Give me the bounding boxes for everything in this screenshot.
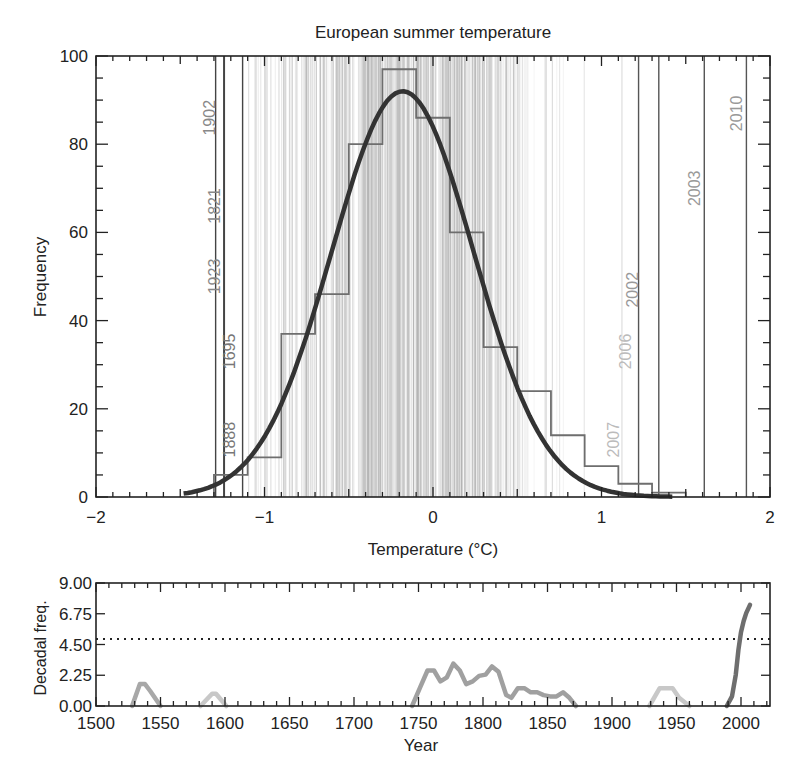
- y-tick-label: 80: [69, 135, 88, 154]
- decadal-series-line: [727, 605, 750, 706]
- y-tick-labels: 0.002.254.506.759.00: [59, 574, 92, 716]
- x-tick-label: 1950: [658, 714, 696, 733]
- y-tick-label: 0.00: [59, 697, 92, 716]
- chart-title: European summer temperature: [315, 23, 551, 42]
- x-tick-label: −2: [86, 508, 105, 527]
- y-tick-label: 40: [69, 312, 88, 331]
- y-tick-label: 60: [69, 223, 88, 242]
- x-tick-label: 1650: [271, 714, 309, 733]
- x-tick-labels: −2−1012: [86, 508, 774, 527]
- x-tick-label: 1500: [77, 714, 115, 733]
- x-tick-label: 1550: [142, 714, 180, 733]
- chart-canvas: European summer temperature 190218211923…: [0, 0, 805, 782]
- year-label: 1902: [201, 100, 218, 136]
- x-tick-label: 1750: [400, 714, 438, 733]
- x-tick-label: 1: [597, 508, 606, 527]
- y-tick-label: 0: [79, 488, 88, 507]
- x-tick-label: 1850: [529, 714, 567, 733]
- x-tick-label: 2000: [722, 714, 760, 733]
- histogram-panel: European summer temperature 190218211923…: [31, 23, 775, 559]
- year-label: 1923: [206, 259, 223, 295]
- x-tick-label: 0: [428, 508, 437, 527]
- y-tick-label: 100: [60, 47, 88, 66]
- y-tick-label: 9.00: [59, 574, 92, 593]
- decadal-series-line: [649, 688, 689, 706]
- y-tick-label: 6.75: [59, 605, 92, 624]
- year-label: 1695: [221, 334, 238, 370]
- x-tick-labels: 1500155016001650170017501800185019001950…: [77, 714, 760, 733]
- y-axis-label: Decadal freq.: [32, 600, 49, 695]
- x-axis-label: Year: [404, 736, 439, 755]
- decadal-frequency-panel: 1500155016001650170017501800185019001950…: [32, 574, 770, 755]
- x-tick-label: 1600: [206, 714, 244, 733]
- decadal-series-line: [132, 684, 160, 706]
- year-label: 1888: [221, 422, 238, 458]
- x-tick-label: 2: [765, 508, 774, 527]
- year-label: 2007: [605, 422, 622, 458]
- y-tick-label: 20: [69, 400, 88, 419]
- y-tick-labels: 020406080100: [60, 47, 88, 507]
- y-tick-label: 4.50: [59, 636, 92, 655]
- year-label: 2003: [686, 170, 703, 206]
- figure: European summer temperature 190218211923…: [0, 0, 805, 782]
- x-tick-label: 1700: [335, 714, 373, 733]
- decadal-frequency-series: [132, 605, 750, 706]
- x-tick-label: −1: [255, 508, 274, 527]
- decadal-series-line: [201, 694, 227, 706]
- x-tick-label: 1900: [593, 714, 631, 733]
- x-axis-label: Temperature (°C): [368, 540, 499, 559]
- year-label: 2006: [617, 334, 634, 370]
- year-label: 1821: [206, 188, 223, 224]
- decadal-series-line: [412, 664, 576, 706]
- y-tick-label: 2.25: [59, 666, 92, 685]
- year-label: 2002: [624, 272, 641, 308]
- year-label: 2010: [728, 95, 745, 131]
- x-tick-label: 1800: [464, 714, 502, 733]
- y-axis-label: Frequency: [31, 236, 50, 317]
